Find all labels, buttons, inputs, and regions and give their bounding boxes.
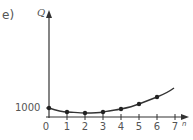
y-axis-arrow-icon: [46, 10, 52, 18]
x-tick-0: 0: [40, 122, 52, 132]
chart-plot: [0, 0, 193, 140]
x-tick-7: 7: [169, 122, 181, 132]
x-tick-6: 6: [151, 122, 163, 132]
x-tick-3: 3: [97, 122, 109, 132]
x-tick-2: 2: [79, 122, 91, 132]
x-tick-5: 5: [133, 122, 145, 132]
x-tick-1: 1: [61, 122, 73, 132]
x-axis-label: n: [182, 121, 186, 128]
x-tick-4: 4: [115, 122, 127, 132]
series-curve: [49, 88, 174, 113]
